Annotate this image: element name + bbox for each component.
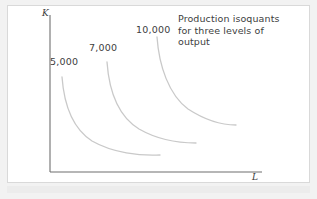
- isoquant-curve-10000: [157, 37, 236, 125]
- figure-root: K L 5,000 7,000 10,000 Production isoqua…: [0, 0, 317, 199]
- isoquant-curve-7000: [107, 62, 196, 143]
- curve-label-5000: 5,000: [50, 56, 78, 67]
- x-axis-label: L: [252, 172, 258, 182]
- y-axis-label: K: [42, 8, 49, 18]
- annotation-line-1: Production isoquants: [178, 13, 306, 25]
- curve-label-7000: 7,000: [89, 42, 117, 53]
- annotation-line-2: for three levels of: [178, 25, 306, 37]
- chart-annotation: Production isoquants for three levels of…: [178, 13, 306, 48]
- curve-label-10000: 10,000: [136, 24, 170, 35]
- annotation-line-3: output: [178, 36, 306, 48]
